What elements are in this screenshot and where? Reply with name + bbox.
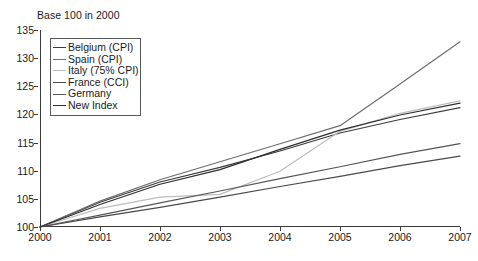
y-tick-mark: [34, 143, 38, 144]
y-tick-mark: [34, 86, 38, 87]
y-tick-label: 125: [16, 80, 34, 92]
y-tick-label: 105: [16, 193, 34, 205]
y-tick-label: 115: [17, 137, 34, 149]
legend: Belgium (CPI)Spain (CPI)Italy (75% CPI)F…: [50, 38, 141, 116]
x-tick-mark: [280, 227, 281, 231]
series-line: [40, 144, 460, 227]
y-axis: 100105110115120125130135: [0, 30, 34, 227]
x-tick-mark: [160, 227, 161, 231]
x-tick-label: 2001: [88, 231, 111, 243]
y-tick-label: 130: [16, 52, 34, 64]
x-axis: 20002001200220032004200520062007: [40, 231, 460, 247]
legend-swatch-icon: [53, 94, 66, 95]
legend-label: New Index: [68, 100, 118, 112]
y-tick-label: 110: [17, 165, 34, 177]
legend-label: Belgium (CPI): [68, 42, 133, 54]
legend-swatch-icon: [53, 70, 66, 71]
legend-item: New Index: [53, 100, 137, 112]
legend-swatch-icon: [53, 105, 66, 106]
y-tick-label: 135: [16, 24, 34, 36]
y-tick-label: 120: [16, 108, 34, 120]
series-line: [40, 108, 460, 227]
x-tick-label: 2003: [208, 231, 231, 243]
legend-swatch-icon: [53, 59, 66, 60]
y-tick-mark: [34, 227, 38, 228]
x-tick-label: 2004: [268, 231, 291, 243]
x-tick-label: 2000: [28, 231, 51, 243]
x-tick-label: 2005: [328, 231, 351, 243]
chart-title: Base 100 in 2000: [37, 9, 120, 21]
x-tick-label: 2007: [448, 231, 471, 243]
x-tick-mark: [460, 227, 461, 231]
y-tick-mark: [34, 171, 38, 172]
x-tick-mark: [40, 227, 41, 231]
x-tick-mark: [340, 227, 341, 231]
legend-swatch-icon: [53, 82, 66, 83]
x-tick-label: 2006: [388, 231, 411, 243]
x-tick-mark: [100, 227, 101, 231]
y-tick-mark: [34, 58, 38, 59]
legend-swatch-icon: [53, 47, 66, 48]
x-tick-mark: [220, 227, 221, 231]
x-tick-label: 2002: [148, 231, 171, 243]
y-tick-mark: [34, 114, 38, 115]
x-tick-mark: [400, 227, 401, 231]
y-tick-mark: [34, 30, 38, 31]
chart-root: Base 100 in 2000 10010511011512012513013…: [0, 0, 478, 261]
y-tick-mark: [34, 199, 38, 200]
legend-item: Belgium (CPI): [53, 42, 137, 54]
series-line: [40, 156, 460, 227]
